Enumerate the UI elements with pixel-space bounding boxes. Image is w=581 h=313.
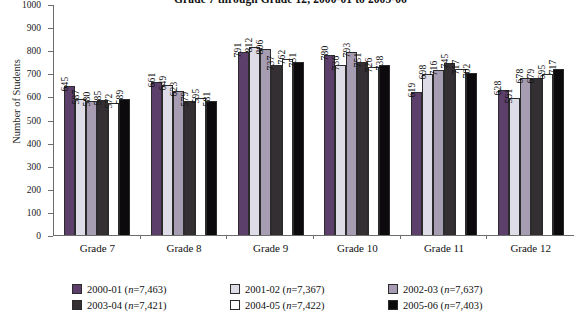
legend-item[interactable]: 2004-05 (n=7,422) [230,300,384,311]
bar: 678 [520,78,531,235]
bar-value-label: 751 [353,52,363,67]
legend-swatch [72,284,82,294]
bar-groups: 645587580585572589Grade 7661649623579595… [54,5,574,235]
y-axis-tick: 1000 [48,5,53,6]
bar-value-label: 812 [244,38,254,53]
legend-label: 2003-04 (n=7,421) [87,300,166,311]
y-axis-tick: 400 [48,144,53,145]
y-axis-tick: 0 [48,236,53,237]
bar-group: 619698716745717702Grade 11 [401,5,488,235]
bar: 661 [151,82,162,235]
bar: 579 [184,101,195,235]
bar-value-label: 649 [158,76,168,91]
bar: 780 [324,55,335,235]
bar: 589 [119,99,130,235]
y-axis-tick-label: 100 [27,208,41,218]
x-axis-category-label: Grade 11 [401,242,488,254]
bar-value-label: 738 [375,55,385,70]
chart-legend: 2000-01 (n=7,463)2001-02 (n=7,367)2002-0… [72,281,542,313]
bar-group: 628591678679695717Grade 12 [487,5,574,235]
bar-value-label: 745 [440,53,450,68]
x-axis-tick [140,235,141,239]
chart-container: Grade 7 through Grade 12, 2000-01 to 200… [0,0,581,313]
bar-value-label: 806 [255,39,265,54]
bar-value-label: 585 [93,90,103,105]
bar: 737 [271,65,282,235]
x-axis-tick [400,235,401,239]
y-axis-tick-label: 200 [27,185,41,195]
bar: 580 [86,101,97,235]
bar: 581 [206,101,217,235]
legend-label: 2001-02 (n=7,367) [245,284,324,295]
bar-value-label: 572 [104,93,114,108]
bar-value-label: 623 [169,82,179,97]
bar-value-label: 751 [288,52,298,67]
bar-value-label: 716 [429,60,439,75]
bar: 619 [411,92,422,235]
bar: 751 [357,62,368,235]
bar-value-label: 717 [548,60,558,75]
legend-label: 2002-03 (n=7,637) [403,284,482,295]
bar: 745 [444,63,455,235]
bar: 623 [173,91,184,235]
bar-value-label: 726 [364,58,374,73]
bar-value-label: 595 [191,88,201,103]
y-axis-tick: 900 [48,28,53,29]
y-axis-label: Number of Students [11,32,22,172]
legend-item[interactable]: 2005-06 (n=7,403) [388,300,542,311]
bar: 595 [195,98,206,235]
bar: 591 [509,98,520,235]
bar-value-label: 579 [180,92,190,107]
bar-group: 791812806737762751Grade 9 [227,5,314,235]
bar-value-label: 587 [71,90,81,105]
bar-value-label: 581 [202,91,212,106]
legend-swatch [230,284,240,294]
bar-value-label: 679 [526,69,536,84]
bar-value-label: 661 [147,73,157,88]
legend-item[interactable]: 2000-01 (n=7,463) [72,284,226,295]
bar: 762 [282,59,293,235]
y-axis-tick-label: 800 [27,46,41,56]
y-axis-tick-label: 700 [27,69,41,79]
plot-area: 10009008007006005004003002001000 6455875… [53,5,574,236]
bar-group: 661649623579595581Grade 8 [141,5,228,235]
bar-value-label: 589 [115,90,125,105]
legend-label: 2000-01 (n=7,463) [87,284,166,295]
y-axis-tick: 600 [48,97,53,98]
legend-item[interactable]: 2001-02 (n=7,367) [230,284,384,295]
bar-value-label: 702 [462,63,472,78]
y-axis-tick: 800 [48,51,53,52]
legend-item[interactable]: 2003-04 (n=7,421) [72,300,226,311]
bar-value-label: 793 [342,42,352,57]
bar: 698 [422,74,433,235]
y-axis-tick: 300 [48,167,53,168]
bar: 587 [75,99,86,235]
bar-value-label: 678 [515,69,525,84]
x-axis-category-label: Grade 7 [54,242,141,254]
bar-value-label: 698 [418,64,428,79]
legend-label: 2005-06 (n=7,403) [403,300,482,311]
x-axis-category-label: Grade 9 [227,242,314,254]
x-axis-category-label: Grade 10 [314,242,401,254]
y-axis-tick-label: 1000 [22,0,41,10]
bar: 717 [455,69,466,235]
y-axis-tick-label: 500 [27,116,41,126]
legend-swatch [388,300,398,310]
bar: 751 [293,62,304,235]
x-axis-tick [313,235,314,239]
x-axis-tick [486,235,487,239]
bar-value-label: 762 [277,50,287,65]
legend-swatch [72,300,82,310]
bar: 738 [379,65,390,235]
bar: 628 [498,90,509,235]
legend-item[interactable]: 2002-03 (n=7,637) [388,284,542,295]
y-axis-tick-label: 0 [36,231,41,241]
bar: 717 [553,69,564,235]
legend-swatch [230,300,240,310]
bar: 572 [108,103,119,235]
bar-value-label: 780 [320,45,330,60]
x-axis-category-label: Grade 8 [141,242,228,254]
bar: 791 [238,52,249,235]
x-axis-tick [226,235,227,239]
y-axis-tick: 700 [48,74,53,75]
